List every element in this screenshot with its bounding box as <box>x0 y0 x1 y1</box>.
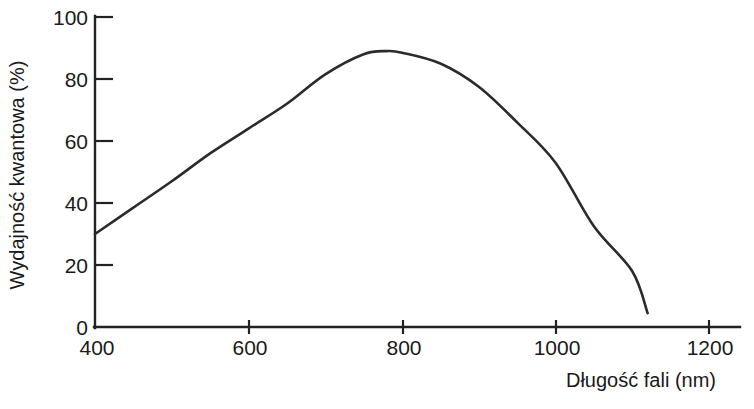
quantum-efficiency-plot: 100 80 60 40 20 0 400 600 800 1000 1200 … <box>0 0 754 409</box>
y-axis-tick-labels: 100 80 60 40 20 0 <box>53 6 88 339</box>
x-tick-label-400: 400 <box>79 336 114 359</box>
x-tick-label-1200: 1200 <box>687 336 734 359</box>
quantum-efficiency-curve <box>95 51 648 313</box>
y-tick-label-80: 80 <box>65 68 88 91</box>
x-axis-title: Długość fali (nm) <box>566 369 716 391</box>
x-axis-tick-labels: 400 600 800 1000 1200 <box>79 336 733 359</box>
x-tick-label-800: 800 <box>386 336 421 359</box>
x-tick-label-600: 600 <box>232 336 267 359</box>
y-axis-title: Wydajność kwantowa (%) <box>6 61 28 290</box>
y-tick-label-40: 40 <box>65 192 88 215</box>
y-tick-label-20: 20 <box>65 254 88 277</box>
y-tick-label-100: 100 <box>53 6 88 29</box>
chart-figure: 100 80 60 40 20 0 400 600 800 1000 1200 … <box>0 0 754 409</box>
y-tick-label-60: 60 <box>65 130 88 153</box>
x-tick-label-1000: 1000 <box>534 336 581 359</box>
